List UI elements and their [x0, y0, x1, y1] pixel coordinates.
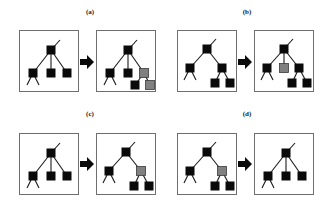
tree-node	[211, 79, 220, 88]
highlighted-tree-node	[146, 81, 155, 90]
tree-node	[47, 149, 56, 158]
tree-node	[124, 69, 133, 78]
tree-node	[63, 172, 72, 181]
tree-panel-before-d	[177, 133, 237, 195]
right-arrow-icon	[238, 157, 252, 171]
tree-panel-after-a	[96, 30, 156, 92]
tree-panel-after-d	[254, 133, 314, 195]
tree-node	[145, 182, 154, 191]
highlighted-tree-node	[140, 69, 149, 78]
tree-node	[29, 69, 38, 78]
highlighted-tree-node	[137, 167, 146, 176]
tree-panel-before-c	[19, 133, 79, 195]
tree-node	[122, 148, 131, 157]
subfigure-label-b: (b)	[232, 8, 262, 16]
right-arrow-icon	[80, 157, 94, 171]
tree-node	[226, 182, 235, 191]
right-arrow-icon	[238, 55, 252, 69]
tree-node	[226, 79, 235, 88]
tree-node	[47, 69, 56, 78]
tree-node	[263, 64, 272, 73]
highlighted-tree-node	[218, 167, 227, 176]
right-arrow-icon	[80, 55, 94, 69]
tree-node	[203, 45, 212, 54]
tree-node	[218, 64, 227, 73]
subfigure-label-c: (c)	[75, 110, 105, 118]
tree-node	[303, 79, 312, 88]
tree-node	[203, 148, 212, 157]
highlighted-tree-node	[280, 64, 289, 73]
tree-node	[106, 69, 115, 78]
subfigure-label-d: (d)	[232, 110, 262, 118]
tree-node	[130, 182, 139, 191]
tree-panel-after-b	[254, 30, 314, 92]
tree-panel-before-b	[177, 30, 237, 92]
tree-node	[131, 81, 140, 90]
tree-node	[29, 172, 38, 181]
tree-node	[295, 64, 304, 73]
tree-node	[105, 167, 114, 176]
tree-node	[282, 172, 291, 181]
tree-node	[211, 182, 220, 191]
tree-node	[47, 46, 56, 55]
tree-node	[288, 79, 297, 88]
tree-node	[264, 172, 273, 181]
tree-node	[124, 46, 133, 55]
tree-node	[47, 172, 56, 181]
tree-node	[298, 172, 307, 181]
tree-node	[280, 45, 289, 54]
subfigure-label-a: (a)	[75, 8, 105, 16]
tree-node	[186, 64, 195, 73]
tree-node	[282, 149, 291, 158]
tree-panel-before-a	[19, 30, 79, 92]
tree-node	[63, 69, 72, 78]
tree-panel-after-c	[96, 133, 156, 195]
tree-node	[186, 167, 195, 176]
